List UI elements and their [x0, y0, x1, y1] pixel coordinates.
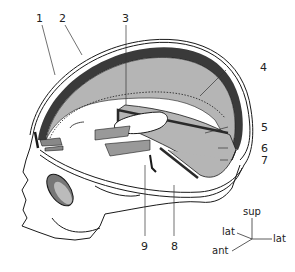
label-9: 9	[141, 241, 148, 252]
label-8: 8	[171, 241, 178, 252]
skull-dura-diagram	[0, 0, 295, 272]
label-1: 1	[36, 13, 43, 24]
label-5: 5	[261, 122, 268, 133]
axis-label-lat-left: lat	[222, 227, 235, 237]
axis-label-ant: ant	[212, 246, 228, 256]
axis-label-sup: sup	[243, 207, 261, 217]
label-6: 6	[261, 143, 268, 154]
label-3: 3	[122, 13, 129, 24]
orientation-axes	[232, 218, 272, 251]
label-2: 2	[59, 13, 66, 24]
axis-label-lat-right: lat	[273, 234, 286, 244]
label-7: 7	[261, 155, 268, 166]
label-4: 4	[260, 62, 267, 73]
